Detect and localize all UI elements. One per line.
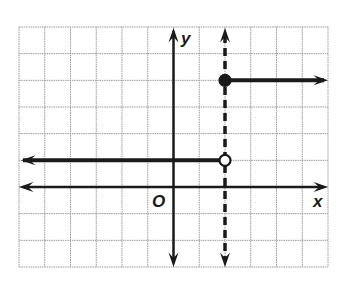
open-endpoint: [220, 155, 231, 166]
axes: [19, 28, 328, 267]
y-axis-label: y: [180, 29, 192, 48]
x-axis-label: x: [312, 192, 324, 211]
closed-endpoint: [220, 75, 231, 86]
origin-label: O: [152, 192, 165, 211]
step-function-graph: y x O: [0, 0, 342, 281]
